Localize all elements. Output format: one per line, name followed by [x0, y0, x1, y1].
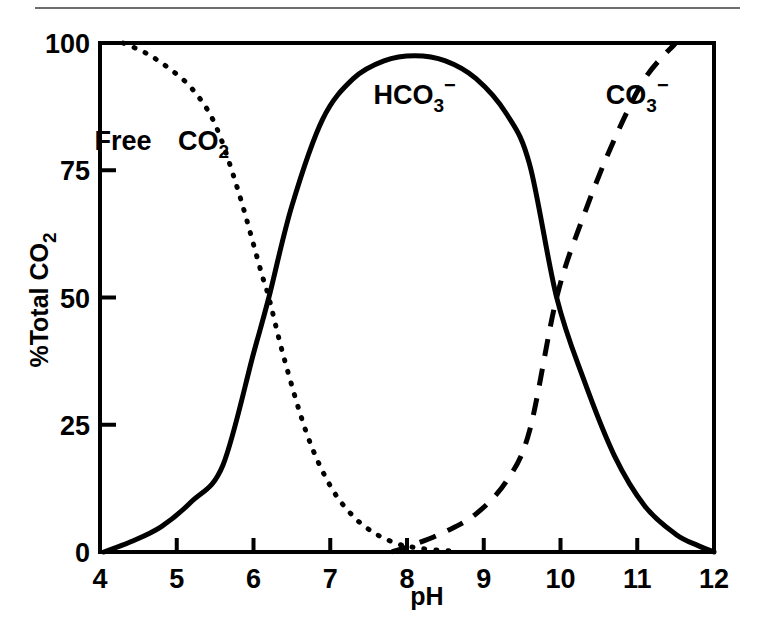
y-tick-label: 75 — [60, 156, 90, 186]
series-annotation: CO2 — [178, 126, 229, 162]
y-axis-title: %Total CO2 — [25, 232, 60, 367]
x-tick-label: 11 — [623, 564, 652, 594]
chart-canvas: 456789101112 0255075100 FreeCO2HCO3−CO3−… — [0, 0, 766, 639]
x-tick-label: 5 — [169, 564, 184, 594]
x-tick-label: 12 — [699, 564, 729, 594]
y-axis-ticks — [100, 170, 116, 425]
x-tick-label: 7 — [323, 564, 338, 594]
y-axis-title-group: %Total CO2 — [25, 232, 60, 367]
x-tick-label: 9 — [476, 564, 491, 594]
x-tick-label: 10 — [545, 564, 575, 594]
y-tick-label: 0 — [75, 538, 90, 568]
figure-container: 456789101112 0255075100 FreeCO2HCO3−CO3−… — [0, 0, 766, 639]
series-line-co3 — [392, 43, 676, 552]
x-axis-title: pH — [410, 582, 443, 610]
series-annotation: CO3− — [606, 74, 669, 116]
x-tick-label: 4 — [92, 564, 107, 594]
y-tick-label: 100 — [45, 29, 90, 59]
series-line-free-co2 — [123, 43, 453, 551]
series-annotation: HCO3− — [374, 74, 456, 116]
series-annotations: FreeCO2HCO3−CO3− — [95, 74, 669, 162]
y-tick-label: 50 — [60, 284, 90, 314]
y-tick-label: 25 — [60, 411, 90, 441]
x-tick-label: 6 — [246, 564, 261, 594]
series-annotation: Free — [95, 126, 152, 156]
